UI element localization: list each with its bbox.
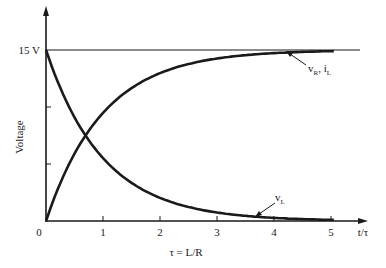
x-tick-label: 2 <box>157 226 163 238</box>
x-tick-label: 3 <box>214 226 220 238</box>
x-tick-label: 5 <box>328 226 334 238</box>
x-tick-label: 4 <box>271 226 277 238</box>
rl-transient-chart: 15 V Voltage 0 1 2 3 4 5 t/τ τ = L/R vR,… <box>0 0 386 268</box>
x-axis-arrow-icon <box>358 218 368 224</box>
x-tick-label: 0 <box>36 226 42 238</box>
label-arrow-vr-il <box>290 54 306 65</box>
curve-vr-il <box>46 51 334 221</box>
y-axis-arrow-icon <box>43 6 49 16</box>
y-tick-label-15v: 15 V <box>19 44 41 56</box>
series-label-vl: vL <box>275 191 285 206</box>
tau-definition: τ = L/R <box>169 246 203 258</box>
curve-vl <box>46 50 334 220</box>
y-axis-label: Voltage <box>13 120 25 154</box>
x-tick-label: 1 <box>100 226 106 238</box>
series-label-vr-il: vR, iL <box>308 62 331 77</box>
x-axis-label: t/τ <box>358 226 369 238</box>
label-arrow-vl <box>259 203 275 214</box>
